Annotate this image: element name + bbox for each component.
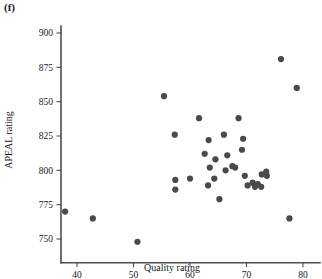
y-tick-label: 750 bbox=[39, 234, 54, 244]
data-point bbox=[239, 147, 245, 153]
data-point bbox=[187, 175, 193, 181]
data-point bbox=[207, 164, 213, 170]
y-tick-label: 825 bbox=[39, 131, 54, 141]
data-point bbox=[258, 184, 264, 190]
y-tick-label: 900 bbox=[39, 28, 54, 38]
y-tick-label: 775 bbox=[39, 200, 54, 210]
data-point bbox=[232, 164, 238, 170]
y-tick-group: 750775800825850875900 bbox=[39, 28, 61, 244]
scatter-plot: 750775800825850875900 4050607080 bbox=[0, 0, 322, 279]
x-tick-group: 4050607080 bbox=[72, 263, 308, 279]
data-point bbox=[172, 186, 178, 192]
data-point bbox=[202, 151, 208, 157]
data-point bbox=[242, 173, 248, 179]
data-point bbox=[205, 182, 211, 188]
data-point bbox=[264, 173, 270, 179]
data-point bbox=[216, 196, 222, 202]
data-point bbox=[240, 136, 246, 142]
y-tick-label: 800 bbox=[39, 166, 54, 176]
data-point bbox=[211, 175, 217, 181]
data-point bbox=[221, 132, 227, 138]
data-point bbox=[206, 137, 212, 143]
data-point bbox=[222, 167, 228, 173]
figure-root: (f) APEAL rating Quality rating 75077580… bbox=[0, 0, 322, 279]
data-point bbox=[278, 56, 284, 62]
x-tick-label: 50 bbox=[129, 270, 139, 279]
y-tick-label: 875 bbox=[39, 63, 54, 73]
data-point bbox=[134, 239, 140, 245]
data-point bbox=[286, 215, 292, 221]
data-point bbox=[172, 132, 178, 138]
data-point bbox=[196, 115, 202, 121]
y-axis: 750775800825850875900 bbox=[39, 26, 61, 263]
data-point bbox=[161, 93, 167, 99]
data-point-group bbox=[62, 56, 300, 245]
data-point bbox=[212, 156, 218, 162]
x-tick-label: 60 bbox=[185, 270, 195, 279]
x-axis: 4050607080 bbox=[61, 263, 320, 279]
data-point bbox=[235, 115, 241, 121]
data-point bbox=[90, 215, 96, 221]
data-point bbox=[224, 152, 230, 158]
data-point bbox=[62, 208, 68, 214]
data-point bbox=[294, 85, 300, 91]
x-tick-label: 80 bbox=[298, 270, 308, 279]
x-tick-label: 70 bbox=[242, 270, 252, 279]
y-tick-label: 850 bbox=[39, 97, 54, 107]
x-tick-label: 40 bbox=[72, 270, 82, 279]
data-point bbox=[172, 177, 178, 183]
